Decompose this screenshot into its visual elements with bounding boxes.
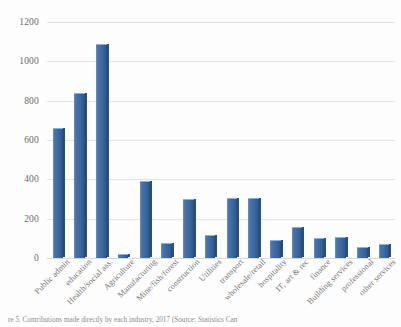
bar-slot <box>140 22 151 258</box>
y-tick-label-600: 600 <box>24 135 39 145</box>
figure-caption: re 5. Contributions made directly by eac… <box>8 316 401 324</box>
bar <box>292 227 303 258</box>
bar <box>74 93 85 258</box>
bar-slot <box>118 22 129 258</box>
bar-slot <box>53 22 64 258</box>
bar <box>335 237 346 258</box>
bar-slot <box>357 22 368 258</box>
bar-slot <box>248 22 259 258</box>
bar <box>96 44 107 258</box>
bar <box>227 198 238 258</box>
bar-slot <box>292 22 303 258</box>
y-tick-label-800: 800 <box>24 96 39 106</box>
y-tick-label-0: 0 <box>34 253 39 263</box>
bar-series <box>47 22 395 258</box>
y-tick-label-400: 400 <box>24 174 39 184</box>
bar-slot <box>74 22 85 258</box>
plot-area <box>47 22 395 258</box>
bar-slot <box>379 22 390 258</box>
y-tick-label-1000: 1000 <box>19 56 39 66</box>
bar-slot <box>96 22 107 258</box>
bar-slot <box>314 22 325 258</box>
bar <box>357 247 368 258</box>
y-axis-labels: 020040060080010001200 <box>0 0 44 327</box>
bar <box>270 240 281 258</box>
bar-slot <box>205 22 216 258</box>
bar-slot <box>227 22 238 258</box>
y-tick-label-1200: 1200 <box>19 17 39 27</box>
bar <box>183 199 194 258</box>
y-tick-label-200: 200 <box>24 214 39 224</box>
bar-slot <box>161 22 172 258</box>
bar <box>248 198 259 258</box>
bar-chart: 020040060080010001200 Public admineducat… <box>0 0 401 327</box>
bar <box>314 238 325 258</box>
bar-slot <box>270 22 281 258</box>
bar <box>205 235 216 258</box>
bar-slot <box>335 22 346 258</box>
bar <box>161 243 172 258</box>
bar <box>53 128 64 258</box>
bar <box>140 181 151 258</box>
bar-slot <box>183 22 194 258</box>
bar <box>379 244 390 258</box>
